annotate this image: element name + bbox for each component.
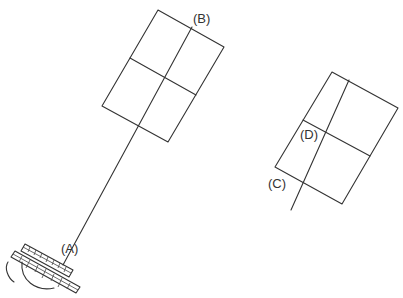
diagram-canvas: (B) (D) (C) — [0, 0, 403, 298]
grid-1 — [63, 10, 224, 265]
label-c: (C) — [268, 176, 286, 191]
label-b: (B) — [193, 11, 210, 26]
grid-1-mid-divider — [130, 58, 196, 95]
label-a: (A) — [61, 241, 78, 256]
label-d: (D) — [300, 127, 318, 142]
device-side-curve — [6, 262, 14, 282]
grid-2 — [275, 72, 398, 210]
grid-2-crossing-line — [291, 80, 349, 210]
